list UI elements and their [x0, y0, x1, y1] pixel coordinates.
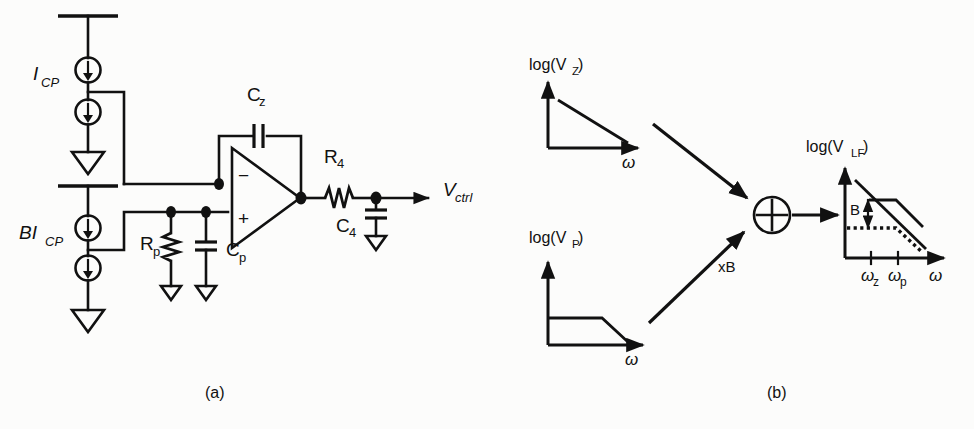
resistor-rp: [163, 212, 179, 286]
icp-label-sub: CP: [41, 75, 59, 90]
r4-label-sub: 4: [337, 156, 344, 171]
caption-b: (b): [767, 384, 787, 401]
plot-vz-title-tail: ): [578, 56, 583, 73]
figure-root: − + C z R 4: [0, 0, 974, 429]
wire-icp-tap: [88, 92, 124, 184]
capacitor-c4: [365, 198, 387, 236]
plot-vz-trace: [558, 100, 628, 143]
opamp: − +: [232, 148, 300, 248]
cp-label: C: [226, 239, 240, 260]
bicp-label-sub: CP: [45, 234, 63, 249]
resistor-r4: [325, 188, 353, 208]
ground-icp: [72, 152, 104, 174]
current-source-icp-upper: [76, 58, 101, 83]
caption-a: (a): [205, 384, 225, 401]
plot-vz-xlabel: ω: [622, 153, 635, 172]
plot-vlf-zero-trace: [855, 180, 926, 249]
ground-cp: [196, 286, 216, 300]
opamp-plus-label: +: [238, 208, 249, 229]
plot-vp: log(V P ) ω: [529, 229, 643, 369]
plot-vp-xlabel: ω: [625, 350, 638, 369]
rp-label: R: [140, 233, 154, 254]
plot-vlf-combined-trace: [869, 200, 923, 227]
capacitor-cp: [195, 212, 217, 286]
rp-zigzag: [163, 233, 179, 261]
blockdiagram-panel: log(V Z ) ω log(V P ) ω xB: [529, 56, 944, 369]
plot-vlf-b-label: B: [850, 201, 860, 218]
ground-c4: [366, 236, 386, 250]
rp-label-sub: p: [153, 244, 160, 259]
plot-vlf-ticklabel-wp-sub: p: [900, 275, 907, 289]
wire-cz-right: [267, 136, 301, 198]
summing-node: [754, 197, 790, 233]
plot-vlf-ticklabel-wz-sub: z: [873, 275, 879, 289]
circuit-panel: − + C z R 4: [19, 16, 473, 332]
current-source-bicp-lower: [76, 256, 101, 281]
c4-label: C: [336, 215, 350, 236]
ground-rp: [161, 286, 181, 300]
plot-vp-title-tail: ): [578, 229, 583, 246]
cp-label-sub: p: [239, 250, 246, 265]
opamp-minus-label: −: [238, 165, 249, 186]
plot-vz: log(V Z ) ω: [529, 56, 638, 172]
plot-vz-title: log(V: [529, 56, 567, 73]
plot-vlf-xlabel: ω: [929, 266, 942, 285]
plot-vlf-title: log(V: [806, 138, 844, 155]
bicp-label: BI: [19, 222, 38, 243]
arrow-vp-to-sum: [649, 232, 744, 323]
r4-zigzag: [325, 188, 353, 208]
plot-vp-title: log(V: [529, 229, 567, 246]
c4-label-sub: 4: [349, 225, 356, 240]
current-source-bicp-upper: [76, 216, 101, 241]
plot-vlf-title-tail: ): [863, 138, 868, 155]
icp-label: I: [33, 63, 39, 84]
current-source-icp-lower: [76, 100, 101, 125]
arrow-vz-to-sum: [653, 124, 747, 198]
vctrl-label-sub: ctrl: [455, 190, 473, 205]
plot-vp-trace: [548, 318, 628, 342]
cz-label-sub: z: [259, 94, 266, 109]
gain-label-xb: xB: [718, 258, 736, 275]
ground-bicp: [72, 310, 104, 332]
r4-label: R: [324, 146, 338, 167]
current-source-branch-icp: [58, 16, 124, 184]
figure-canvas: − + C z R 4: [0, 0, 974, 429]
plot-vlf-pole-trace: [847, 228, 922, 252]
